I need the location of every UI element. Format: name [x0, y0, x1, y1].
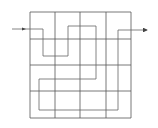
grid-path-diagram: [0, 0, 158, 128]
grid: [30, 12, 131, 118]
start-arrow-icon: [22, 28, 26, 31]
